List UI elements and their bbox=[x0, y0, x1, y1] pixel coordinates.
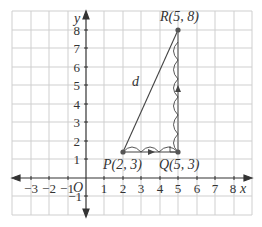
y-tick-label: 3 bbox=[74, 115, 81, 130]
y-axis-down-arrow-icon bbox=[83, 209, 89, 217]
y-tick-label: 4 bbox=[74, 97, 81, 112]
y-tick-label: 5 bbox=[74, 78, 81, 93]
x-tick-label: 2 bbox=[120, 181, 127, 196]
x-tick-label: 3 bbox=[138, 181, 145, 196]
y-tick-label: 2 bbox=[74, 134, 81, 149]
y-tick-label: 1 bbox=[74, 152, 81, 167]
x-tick-label: −3 bbox=[24, 181, 38, 196]
y-tick-labels: 8 7 6 5 4 3 2 1 −1 bbox=[68, 23, 82, 204]
x-tick-label: 5 bbox=[175, 181, 182, 196]
point-P-label: P(2, 3) bbox=[102, 157, 142, 173]
x-axis-left-arrow-icon bbox=[12, 175, 20, 181]
origin-label: O bbox=[73, 180, 83, 195]
x-tick-label: 1 bbox=[101, 181, 108, 196]
point-R bbox=[175, 27, 180, 32]
point-R-label: R(5, 8) bbox=[159, 9, 199, 25]
point-Q-label: Q(5, 3) bbox=[159, 157, 200, 173]
arrow-right-icon bbox=[148, 149, 155, 155]
x-tick-label: 4 bbox=[157, 181, 164, 196]
x-tick-labels: −3 −2 −1 1 2 3 4 5 6 7 8 bbox=[24, 181, 236, 196]
y-tick-label: 7 bbox=[74, 41, 81, 56]
x-tick-label: 8 bbox=[230, 181, 237, 196]
point-Q bbox=[175, 149, 180, 154]
coordinate-diagram: −3 −2 −1 1 2 3 4 5 6 7 8 8 7 6 5 4 3 2 1… bbox=[0, 0, 262, 227]
x-tick-label: 6 bbox=[194, 181, 201, 196]
distance-label: d bbox=[132, 74, 140, 89]
arrow-up-icon bbox=[175, 85, 181, 92]
y-axis-label: y bbox=[72, 11, 81, 26]
x-axis-label: x bbox=[239, 181, 247, 196]
x-tick-label: −2 bbox=[42, 181, 56, 196]
point-P bbox=[120, 149, 125, 154]
y-axis-up-arrow-icon bbox=[83, 11, 89, 19]
x-tick-label: 7 bbox=[212, 181, 219, 196]
y-tick-label: 6 bbox=[74, 60, 81, 75]
